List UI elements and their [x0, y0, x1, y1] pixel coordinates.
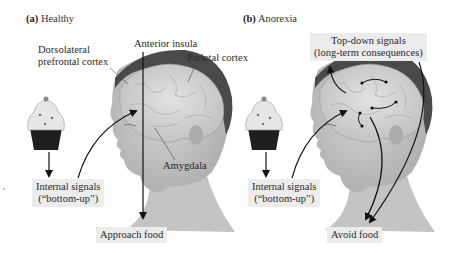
box-topdown-line1: Top-down signals	[314, 35, 423, 47]
margin-dot	[3, 188, 5, 190]
box-internal-signals-anorexia: Internal signals (“bottom-up”)	[248, 179, 320, 207]
box-approach-food: Approach food	[96, 227, 167, 243]
box-topdown-line2: (long-term consequences)	[314, 47, 423, 59]
label-parietal-cortex: Parietal cortex	[187, 52, 248, 64]
box-internal-line1: Internal signals	[252, 181, 316, 193]
box-top-down-signals: Top-down signals (long-term consequences…	[310, 33, 427, 61]
label-amygdala: Amygdala	[163, 160, 207, 172]
panel-a-title: (a) Healthy	[26, 13, 74, 24]
label-dlpfc: Dorsolateral prefrontal cortex	[38, 44, 108, 68]
panel-a-name: Healthy	[41, 13, 74, 24]
box-internal-line2: (“bottom-up”)	[36, 193, 100, 205]
label-dlpfc-line1: Dorsolateral	[38, 44, 108, 56]
panel-b-name: Anorexia	[258, 13, 297, 24]
cupcake-icon	[246, 97, 283, 151]
box-avoid-food: Avoid food	[327, 227, 382, 243]
head-illustration-healthy	[110, 50, 235, 232]
box-internal-signals-healthy: Internal signals (“bottom-up”)	[32, 179, 104, 207]
label-dlpfc-line2: prefrontal cortex	[38, 56, 108, 68]
panel-b-title: (b) Anorexia	[243, 13, 297, 24]
panel-b-letter: (b)	[243, 13, 256, 24]
panel-a-letter: (a)	[26, 13, 38, 24]
cupcake-icon	[28, 97, 65, 151]
box-internal-line2: (“bottom-up”)	[252, 193, 316, 205]
box-internal-line1: Internal signals	[36, 181, 100, 193]
label-anterior-insula: Anterior insula	[134, 38, 197, 50]
